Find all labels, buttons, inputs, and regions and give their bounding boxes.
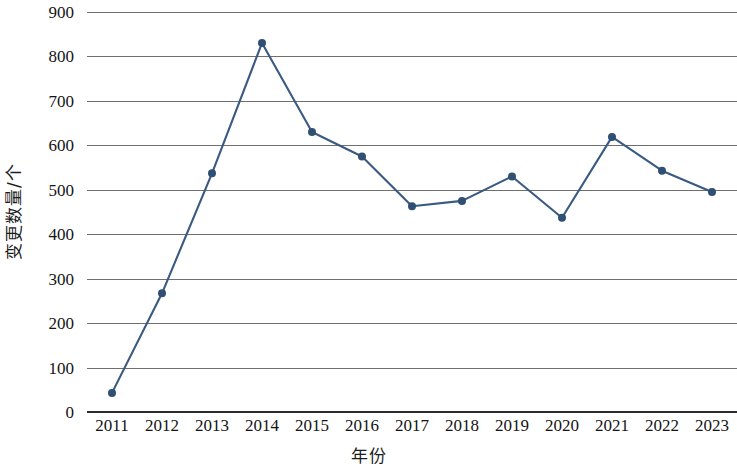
x-axis-tick-label: 2018 bbox=[445, 416, 479, 436]
y-axis-tick-label: 300 bbox=[49, 270, 75, 287]
data-point-marker bbox=[208, 169, 216, 177]
data-point-marker bbox=[658, 167, 666, 175]
x-axis-tick-label: 2017 bbox=[395, 416, 429, 436]
y-axis-tick-label: 200 bbox=[49, 315, 75, 332]
y-axis-tick-label: 800 bbox=[49, 48, 75, 65]
x-axis-title: 年份 bbox=[0, 442, 737, 466]
x-axis-tick-label: 2016 bbox=[345, 416, 379, 436]
x-axis-tick-label: 2020 bbox=[545, 416, 579, 436]
line-chart: 变更数量/个 0100200300400500600700800900 2011… bbox=[0, 0, 737, 466]
series-polyline bbox=[112, 43, 712, 393]
x-axis-tick-labels: 2011201220132014201520162017201820192020… bbox=[87, 416, 737, 442]
x-axis-tick-label: 2019 bbox=[495, 416, 529, 436]
y-axis-tick-label: 500 bbox=[49, 181, 75, 198]
x-axis-tick-label: 2014 bbox=[245, 416, 279, 436]
data-point-marker bbox=[708, 188, 716, 196]
x-axis-tick-label: 2015 bbox=[295, 416, 329, 436]
y-axis-tick-label: 900 bbox=[49, 4, 75, 21]
y-axis-tick-label: 400 bbox=[49, 226, 75, 243]
x-axis-tick-label: 2013 bbox=[195, 416, 229, 436]
data-point-marker bbox=[458, 197, 466, 205]
x-axis-tick-label: 2011 bbox=[95, 416, 128, 436]
x-axis-tick-label: 2022 bbox=[645, 416, 679, 436]
data-point-marker bbox=[558, 214, 566, 222]
y-axis-tick-label: 600 bbox=[49, 137, 75, 154]
data-point-marker bbox=[258, 39, 266, 47]
data-point-marker bbox=[408, 202, 416, 210]
data-point-marker bbox=[608, 133, 616, 141]
y-axis-tick-label: 700 bbox=[49, 92, 75, 109]
data-point-marker bbox=[108, 389, 116, 397]
data-point-marker bbox=[358, 152, 366, 160]
x-axis-tick-label: 2023 bbox=[695, 416, 729, 436]
y-axis-tick-labels: 0100200300400500600700800900 bbox=[0, 0, 82, 466]
plot-area bbox=[87, 0, 737, 466]
data-series-line bbox=[87, 0, 737, 466]
x-axis-tick-label: 2021 bbox=[595, 416, 629, 436]
y-axis-tick-label: 0 bbox=[66, 404, 75, 421]
data-point-marker bbox=[158, 289, 166, 297]
data-point-marker bbox=[308, 128, 316, 136]
y-axis-tick-label: 100 bbox=[49, 359, 75, 376]
x-axis-tick-label: 2012 bbox=[145, 416, 179, 436]
data-point-marker bbox=[508, 172, 516, 180]
